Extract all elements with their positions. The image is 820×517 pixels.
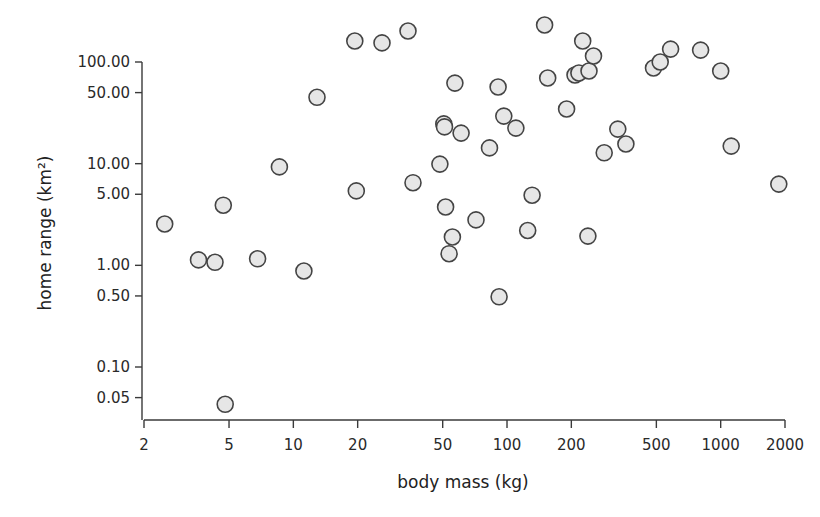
- data-point: [559, 101, 575, 117]
- x-axis-title: body mass (kg): [397, 472, 528, 492]
- scatter-chart: 100.0050.0010.005.001.000.500.100.05 251…: [0, 0, 820, 517]
- y-tick-label: 0.50: [97, 287, 130, 305]
- data-point: [723, 138, 739, 154]
- data-point: [537, 17, 553, 33]
- data-points: [157, 17, 787, 412]
- plot-area: 100.0050.0010.005.001.000.500.100.05 251…: [0, 0, 820, 517]
- data-point: [491, 289, 507, 305]
- data-point: [496, 108, 512, 124]
- data-point: [250, 251, 266, 267]
- y-axis-title: home range (km²): [35, 156, 55, 311]
- x-tick-label: 50: [433, 436, 452, 454]
- data-point: [444, 229, 460, 245]
- x-tick-label: 20: [348, 436, 367, 454]
- data-point: [309, 89, 325, 105]
- data-point: [663, 41, 679, 57]
- data-point: [217, 396, 233, 412]
- data-point: [575, 33, 591, 49]
- y-axis: 100.0050.0010.005.001.000.500.100.05: [78, 53, 143, 420]
- data-point: [215, 197, 231, 213]
- x-tick-label: 500: [642, 436, 671, 454]
- data-point: [441, 246, 457, 262]
- y-tick-label: 1.00: [97, 256, 130, 274]
- data-point: [400, 23, 416, 39]
- data-point: [596, 145, 612, 161]
- data-point: [713, 63, 729, 79]
- data-point: [610, 121, 626, 137]
- y-tick-label: 100.00: [78, 53, 131, 71]
- x-tick-label: 2000: [766, 436, 804, 454]
- data-point: [271, 159, 287, 175]
- data-point: [482, 140, 498, 156]
- data-point: [432, 156, 448, 172]
- data-point: [580, 228, 596, 244]
- y-tick-label: 5.00: [97, 185, 130, 203]
- data-point: [438, 199, 454, 215]
- data-point: [347, 33, 363, 49]
- data-point: [540, 70, 556, 86]
- data-point: [524, 187, 540, 203]
- x-tick-label: 10: [284, 436, 303, 454]
- y-tick-label: 50.00: [87, 84, 130, 102]
- data-point: [693, 42, 709, 58]
- data-point: [508, 120, 524, 136]
- data-point: [437, 119, 453, 135]
- data-point: [520, 223, 536, 239]
- data-point: [453, 125, 469, 141]
- data-point: [348, 183, 364, 199]
- x-tick-label: 100: [493, 436, 522, 454]
- y-tick-label: 10.00: [87, 155, 130, 173]
- data-point: [586, 48, 602, 64]
- data-point: [374, 35, 390, 51]
- data-point: [296, 263, 312, 279]
- y-tick-label: 0.05: [97, 389, 130, 407]
- x-tick-label: 1000: [702, 436, 740, 454]
- data-point: [618, 136, 634, 152]
- x-axis: 2510205010020050010002000: [139, 420, 804, 454]
- data-point: [447, 75, 463, 91]
- data-point: [581, 63, 597, 79]
- data-point: [207, 254, 223, 270]
- data-point: [157, 216, 173, 232]
- data-point: [405, 175, 421, 191]
- data-point: [191, 252, 207, 268]
- x-tick-label: 2: [139, 436, 149, 454]
- x-tick-label: 200: [557, 436, 586, 454]
- data-point: [490, 79, 506, 95]
- data-point: [468, 212, 484, 228]
- y-tick-label: 0.10: [97, 358, 130, 376]
- data-point: [771, 176, 787, 192]
- x-tick-label: 5: [224, 436, 234, 454]
